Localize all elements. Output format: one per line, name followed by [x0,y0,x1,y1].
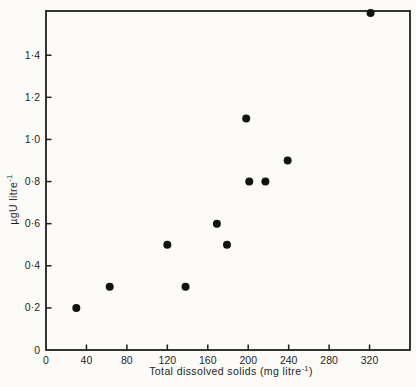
data-point [182,283,190,291]
y-tick-label: 0·6 [25,217,40,229]
chart-canvas: 0408012016020024028032000·20·40·60·81·01… [0,0,416,387]
data-point [367,9,375,17]
data-point [261,178,269,186]
x-axis-title-text: Total dissolved solids (mg litre [149,365,301,377]
data-point [163,241,171,249]
y-axis-title-exponent: -1 [5,174,14,181]
y-tick-label: 0 [34,344,40,356]
y-axis-title-text: µgU litre [7,182,19,225]
x-tick-label: 0 [43,354,49,366]
data-point [213,220,221,228]
data-point [245,178,253,186]
data-point [284,156,292,164]
y-axis-title: µgU litre-1 [7,155,22,245]
y-tick-label: 0·8 [25,175,40,187]
y-tick-label: 1·4 [25,49,40,61]
x-axis-title-close-paren: ) [309,365,313,377]
data-point [242,114,250,122]
data-point [223,241,231,249]
x-axis-title-exponent: -1 [301,364,308,373]
scatter-plot-figure: 0408012016020024028032000·20·40·60·81·01… [0,0,416,387]
data-point [72,304,80,312]
y-tick-label: 0·2 [25,301,40,313]
plot-frame [46,11,410,350]
data-point [106,283,114,291]
y-tick-label: 1·0 [25,133,40,145]
y-tick-label: 1·2 [25,91,40,103]
x-axis-title: Total dissolved solids (mg litre-1) [96,365,366,377]
y-tick-label: 0·4 [25,259,40,271]
x-tick-label: 40 [81,354,93,366]
